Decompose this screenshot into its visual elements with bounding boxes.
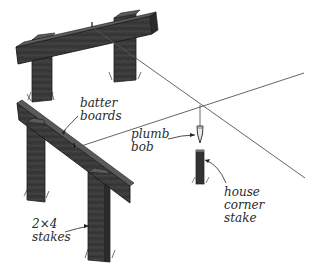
label-stakes: 2×4 stakes [32, 218, 71, 244]
back-batter-board [16, 10, 158, 102]
label-house-corner-stake: house corner stake [224, 186, 264, 225]
diagram-canvas: batter boards plumb bob house corner sta… [0, 0, 325, 273]
label-batter-boards: batter boards [80, 97, 122, 123]
leader-batter-boards [62, 116, 78, 133]
plumb-bob [197, 105, 203, 143]
leader-house-corner [205, 160, 226, 183]
label-plumb-bob: plumb bob [131, 128, 169, 154]
house-corner-stake [192, 150, 209, 184]
